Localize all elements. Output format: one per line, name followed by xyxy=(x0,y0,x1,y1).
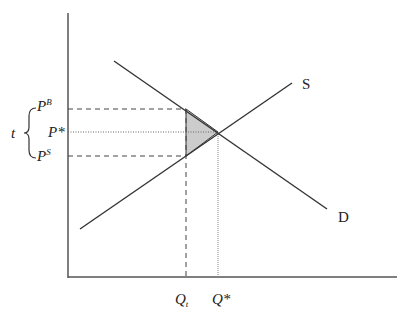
equilibrium-quantity-label: Q* xyxy=(212,291,231,307)
supply-curve xyxy=(80,83,292,229)
tax-label: t xyxy=(11,125,16,141)
demand-label: D xyxy=(338,209,349,225)
supply-label: S xyxy=(302,76,310,92)
tax-incidence-diagram: S D PB P* PS t Qt Q* xyxy=(0,0,409,322)
demand-curve xyxy=(114,61,327,209)
tax-brace-icon xyxy=(24,108,36,158)
equilibrium-price-label: P* xyxy=(47,124,65,140)
taxed-quantity-label: Qt xyxy=(175,291,189,309)
seller-price-label: PS xyxy=(36,147,51,164)
buyer-price-label: PB xyxy=(36,97,52,114)
